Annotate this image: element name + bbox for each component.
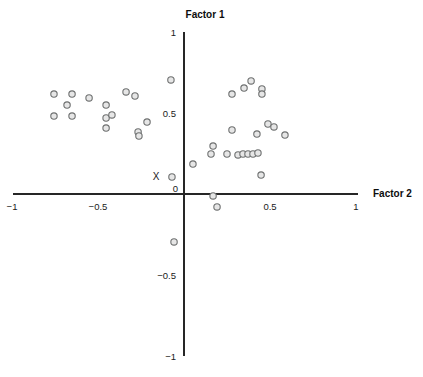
x-tick-label: 1 — [353, 201, 358, 212]
y-tick-label: −1 — [165, 351, 176, 362]
y-tick-label: 0.5 — [163, 108, 176, 119]
data-point-marker — [132, 93, 138, 99]
data-point-marker — [241, 85, 247, 91]
data-point-marker — [282, 132, 288, 138]
y-tick-label: −0.5 — [157, 270, 176, 281]
data-point-marker — [248, 78, 254, 84]
data-point-marker — [103, 125, 109, 131]
data-point-marker — [229, 91, 235, 97]
data-point-marker — [103, 102, 109, 108]
data-point-marker — [271, 124, 277, 130]
data-point-marker — [190, 161, 196, 167]
data-point-marker — [171, 239, 177, 245]
data-point-marker — [64, 102, 70, 108]
data-point-marker — [109, 112, 115, 118]
data-point-marker — [210, 143, 216, 149]
data-point-marker — [224, 151, 230, 157]
point-annotation-label: X — [153, 171, 160, 182]
data-point-marker — [214, 204, 220, 210]
data-point-marker — [229, 127, 235, 133]
data-point-marker — [123, 89, 129, 95]
x-tick-label: 0.5 — [263, 201, 276, 212]
data-point-marker — [169, 174, 175, 180]
x-tick-label: −1 — [7, 201, 18, 212]
data-point-marker — [265, 121, 271, 127]
data-point-marker — [51, 91, 57, 97]
origin-tick-label: 0 — [173, 183, 178, 194]
plot-canvas: −1−0.50.51 −1−0.50.51 0 X — [0, 0, 423, 377]
data-point-marker — [144, 119, 150, 125]
data-point-marker — [255, 150, 261, 156]
axes-group — [13, 32, 358, 356]
data-point-marker — [259, 91, 265, 97]
data-point-marker — [51, 113, 57, 119]
x-tick-labels: −1−0.50.51 — [7, 201, 359, 212]
y-tick-label: 1 — [171, 27, 176, 38]
scatter-plot-figure: −1−0.50.51 −1−0.50.51 0 X Factor 1 Facto… — [0, 0, 423, 377]
data-point-marker — [210, 193, 216, 199]
data-point-marker — [136, 133, 142, 139]
data-point-marker — [208, 151, 214, 157]
x-tick-label: −0.5 — [89, 201, 108, 212]
point-annotations-group: X — [153, 171, 160, 182]
data-point-marker — [69, 113, 75, 119]
data-point-marker — [69, 91, 75, 97]
data-point-marker — [254, 131, 260, 137]
data-points-group — [51, 77, 288, 245]
data-point-marker — [168, 77, 174, 83]
data-point-marker — [258, 172, 264, 178]
origin-label-group: 0 — [173, 183, 178, 194]
data-point-marker — [86, 95, 92, 101]
